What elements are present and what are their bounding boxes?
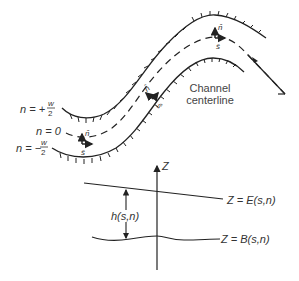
n-hat-label-right: n̂	[218, 23, 223, 32]
n-hat-label: n̂	[85, 129, 90, 138]
svg-text:n = 0: n = 0	[36, 125, 62, 137]
outer-bank	[62, 11, 266, 123]
z-axis-label: Z	[161, 160, 170, 172]
s-hat-label-right: ŝ	[216, 42, 220, 51]
svg-text:n = −: n = −	[16, 142, 42, 154]
svg-text:w: w	[48, 99, 55, 108]
water-surface-label: Z = E(s,n)	[226, 194, 276, 206]
centerline-callout: Channel centerline	[186, 82, 234, 106]
svg-text:w: w	[41, 138, 48, 147]
svg-text:2: 2	[41, 148, 46, 157]
unit-vectors-left: n̂ ŝ	[81, 129, 92, 157]
bed-line	[92, 236, 220, 240]
bed-label: Z = B(s,n)	[220, 233, 270, 245]
n-hat-label-mid: n̂	[143, 83, 153, 93]
svg-text:Channel: Channel	[190, 82, 231, 94]
section-view: Z Z = E(s,n) Z = B(s,n) h(s,n)	[84, 160, 276, 270]
svg-text:n = +: n = +	[20, 103, 46, 115]
water-surface-line	[84, 183, 223, 199]
label-centerline: n = 0	[36, 125, 62, 137]
depth-label: h(s,n)	[111, 210, 139, 222]
channel-diagram: n̂ ŝ n̂ ŝ n̂ ŝ n = + w 2 n = 0 n = − w 2…	[0, 0, 299, 281]
svg-text:2: 2	[48, 109, 53, 118]
label-outer-bank: n = + w 2	[20, 99, 55, 118]
s-hat-label: ŝ	[81, 148, 85, 157]
svg-text:centerline: centerline	[186, 94, 234, 106]
channel-centerline	[66, 37, 285, 137]
label-inner-bank: n = − w 2	[16, 138, 48, 157]
